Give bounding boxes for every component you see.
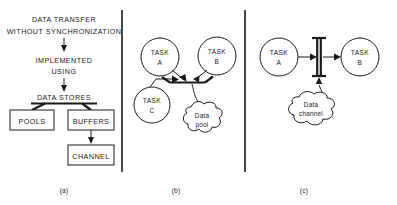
panel-b-task-b-label-line2: B [215,58,220,65]
panel-a-connector-line2: USING [51,67,76,76]
panel-c-task-b-label-line1: TASK [351,49,370,56]
panel-a-box-channel: CHANNEL [68,145,114,165]
panel-a-caption: (a) [60,187,69,195]
panel-c-arrow-channel-to-task-b [323,54,341,61]
panel-b-task-a-label-line2: A [158,59,163,66]
panel-b-task-b-label-line1: TASK [208,48,227,55]
panel-c-cloud-label-line1: Data [304,101,319,108]
panel-a-box-buffers-label: BUFFERS [73,117,110,126]
panel-c-task-a-label-line2: A [277,59,282,66]
figure-container: DATA TRANSFER WITHOUT SYNCHRONIZATION IM… [0,0,397,205]
panel-c-task-b: TASK B [341,38,379,76]
panel-b-task-c: TASK C [134,87,170,123]
panel-c-arrow-task-a-to-channel [298,54,317,61]
panel-b-task-a-label-line1: TASK [151,49,170,56]
panel-b-task-a: TASK A [141,38,179,76]
diagram-canvas: DATA TRANSFER WITHOUT SYNCHRONIZATION IM… [0,0,397,205]
panel-b-task-c-label-line1: TASK [143,97,162,104]
panel-b: TASK A TASK B TASK C [134,37,236,195]
panel-b-task-c-label-line2: C [149,107,154,114]
panel-a-box-channel-label: CHANNEL [72,152,110,161]
panel-c-task-a: TASK A [260,38,298,76]
panel-c-data-channel-cloud: Data channel [289,92,335,125]
panel-c-task-b-label-line2: B [358,59,363,66]
panel-b-data-pool-cloud: Data pool [183,102,222,133]
panel-a-heading-line2: WITHOUT SYNCHRONIZATION [7,27,122,36]
panel-a-heading-line1: DATA TRANSFER [32,15,96,24]
panel-c-caption: (c) [300,187,308,195]
panel-b-cloud-label-line2: pool [196,121,209,129]
panel-c-cloud-label-line2: channel [299,110,323,117]
panel-a-arrow-using-to-stores [61,78,67,92]
panel-a-box-pools: POOLS [10,110,54,130]
panel-b-arrow-task-b-to-pool [193,70,207,83]
panel-a-box-pools-label: POOLS [18,117,45,126]
panel-a: DATA TRANSFER WITHOUT SYNCHRONIZATION IM… [7,15,122,195]
panel-b-task-b: TASK B [198,37,236,75]
panel-a-arrow-buffers-to-channel [88,130,94,144]
panel-a-category-label: DATA STORES [37,93,91,102]
panel-c-task-a-label-line1: TASK [270,49,289,56]
panel-b-caption: (b) [172,187,181,195]
panel-c: TASK A TASK B [260,38,379,195]
panel-a-connector-line1: IMPLEMENTED [36,56,93,65]
panel-a-arrow-heading-to-using [61,38,67,52]
panel-a-box-buffers: BUFFERS [68,110,114,130]
panel-b-cloud-label-line1: Data [195,112,210,119]
panel-b-arrow-task-c-to-pool [150,76,179,88]
